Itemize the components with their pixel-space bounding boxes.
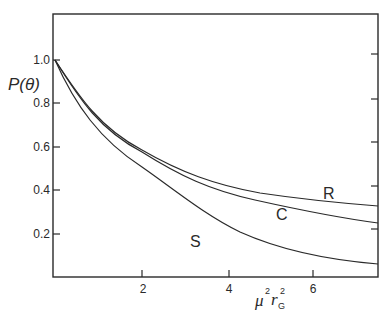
x-axis-label-sup1: 2: [265, 286, 270, 296]
x-tick-label-4: 4: [226, 282, 233, 296]
right-axis-ticks: [371, 54, 378, 229]
y-tick-label-0.2: 0.2: [33, 227, 50, 241]
chart: 1.0 0.8 0.6 0.4 0.2 2 4 6 P(θ) μ 2 r 2 G…: [0, 0, 386, 319]
x-tick-label-2: 2: [140, 282, 147, 296]
x-axis-label-mu: μ: [254, 291, 264, 310]
y-axis-label: P(θ): [8, 75, 40, 94]
curve-label-C: C: [276, 206, 288, 223]
x-axis-label-sup2: 2: [280, 286, 285, 296]
x-tick-label-6: 6: [310, 282, 317, 296]
curve-S: [55, 60, 378, 264]
y-axis-ticks: [53, 60, 60, 234]
y-tick-label-0.6: 0.6: [33, 140, 50, 154]
x-axis-label: μ 2 r 2 G: [254, 286, 285, 311]
y-tick-label-0.4: 0.4: [33, 183, 50, 197]
curve-label-R: R: [323, 185, 335, 202]
curve-label-S: S: [190, 233, 201, 250]
y-tick-label-1.0: 1.0: [33, 53, 50, 67]
x-axis-label-r: r: [271, 290, 278, 309]
plot-frame: [53, 14, 378, 277]
x-axis-ticks: [142, 270, 313, 277]
y-tick-label-0.8: 0.8: [33, 96, 50, 110]
x-axis-label-sub: G: [278, 301, 285, 311]
